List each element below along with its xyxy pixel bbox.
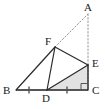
vertex-label-D: D [42, 93, 50, 104]
figure-canvas [0, 0, 105, 109]
vertex-label-E: E [92, 58, 99, 69]
vertex-label-A: A [84, 2, 92, 13]
geometry-figure: A B C D E F [0, 0, 105, 109]
segment-FE [55, 47, 88, 65]
vertex-label-C: C [92, 85, 99, 96]
vertex-label-B: B [3, 85, 10, 96]
vertex-label-F: F [45, 36, 51, 47]
segment-BF [16, 47, 55, 90]
segment-FA-dotted [55, 14, 88, 47]
segment-FD [47, 47, 55, 90]
